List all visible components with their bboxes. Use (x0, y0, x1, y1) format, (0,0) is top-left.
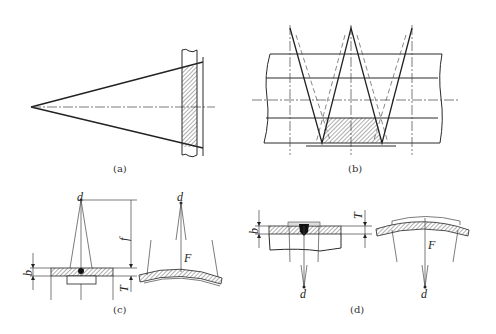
panel-b (252, 25, 460, 155)
hatched-section (182, 66, 197, 147)
panel-a (31, 49, 215, 157)
label-distance-F-c: F (183, 251, 192, 265)
curved-plate-c (139, 269, 222, 284)
label-source-d-d: d (300, 287, 307, 301)
label-focal-f: f (117, 236, 131, 241)
technical-figure: (a) (b) d (0, 0, 496, 334)
panel-d: d b T F d (247, 210, 469, 301)
label-thickness-T-d: T (351, 211, 365, 219)
beam-edge-bottom (31, 107, 203, 148)
caption-c: (c) (113, 304, 127, 315)
label-distance-F-d: F (427, 238, 436, 252)
pipe-break-right (440, 54, 443, 143)
label-source-d-right-d: d (421, 287, 428, 301)
label-width-b-d: b (247, 228, 261, 234)
weld-bead (78, 268, 84, 274)
label-thickness-T-c: T (117, 284, 131, 292)
caption-b: (b) (348, 163, 362, 174)
pipe-break-left (264, 54, 270, 143)
panel-c: d b f T d (21, 190, 222, 300)
caption-d: (d) (350, 304, 364, 315)
curved-plate-d (376, 222, 469, 236)
label-width-b-c: b (21, 270, 35, 276)
caption-a: (a) (113, 163, 127, 174)
beam-edge-top (31, 62, 203, 107)
hatched-section-b (322, 118, 382, 143)
